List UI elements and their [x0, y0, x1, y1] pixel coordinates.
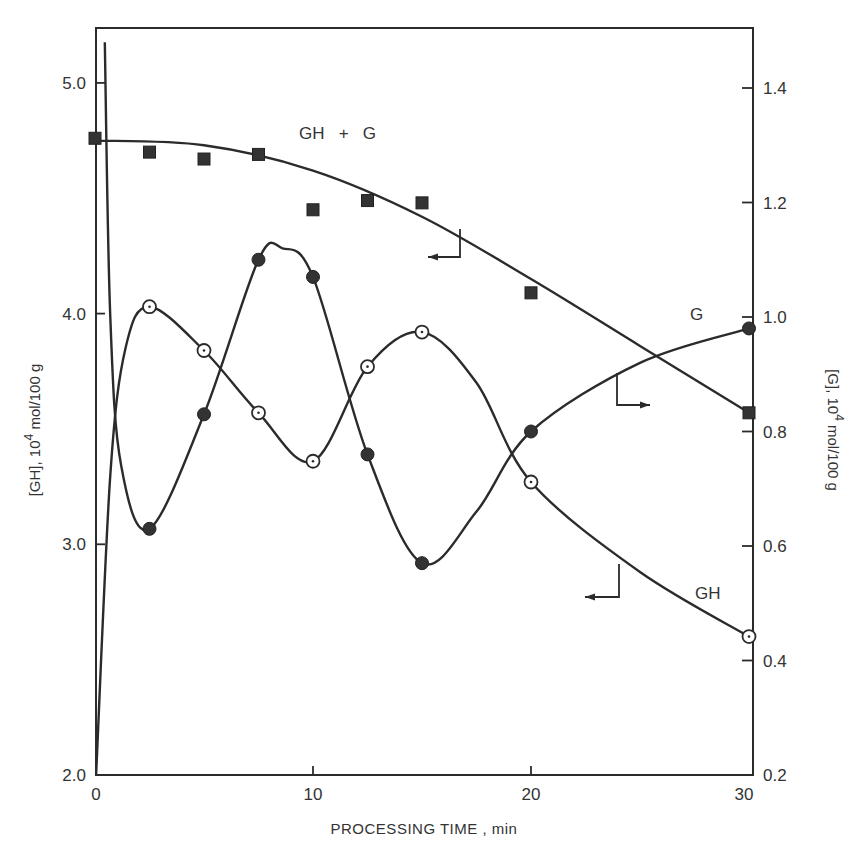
x-axis-title: PROCESSING TIME , min: [331, 820, 518, 837]
marker-gh-g-square: [198, 153, 210, 165]
marker-g-filled-circle: [416, 557, 429, 570]
marker-gh-g-square: [362, 195, 374, 207]
chart: 2.03.04.05.0 0.20.40.60.81.01.21.4 01020…: [0, 0, 852, 864]
plot-frame: [96, 28, 753, 775]
right-y-axis: 0.20.40.60.81.01.21.4: [742, 79, 787, 785]
marker-gh-center-dot: [257, 412, 260, 415]
marker-gh-center-dot: [530, 481, 533, 484]
right-axis-title-text: [G], 104 mol/100 g: [825, 369, 846, 491]
series-markers: [89, 132, 756, 643]
marker-g-filled-circle: [198, 408, 211, 421]
marker-gh-g-square: [144, 146, 156, 158]
x-tick-label: 0: [91, 785, 100, 804]
marker-gh-center-dot: [312, 460, 315, 463]
marker-gh-center-dot: [748, 635, 751, 638]
right-tick-label: 0.8: [763, 423, 787, 442]
arrowhead-right-icon: [640, 402, 650, 409]
x-axis: 0102030: [91, 766, 753, 804]
marker-gh-center-dot: [421, 331, 424, 334]
x-tick-label: 30: [735, 785, 754, 804]
marker-gh-center-dot: [366, 365, 369, 368]
marker-g-filled-circle: [361, 448, 374, 461]
curve-gh: [96, 307, 749, 775]
marker-gh-center-dot: [148, 305, 151, 308]
marker-gh-center-dot: [203, 349, 206, 352]
marker-g-filled-circle: [143, 522, 156, 535]
series-label-gh-g: GH + G: [299, 124, 376, 143]
series-curves: [95, 42, 749, 775]
arrowhead-left-icon: [585, 594, 595, 601]
right-tick-label: 0.6: [763, 537, 787, 556]
left-axis-title-text: [GH], 104 mol/100 g: [22, 364, 43, 497]
curve-g: [105, 42, 749, 564]
series-label-g: G: [690, 305, 703, 324]
marker-gh-g-square: [89, 132, 101, 144]
x-tick-label: 20: [522, 785, 541, 804]
marker-g-filled-circle: [252, 253, 265, 266]
right-tick-label: 0.2: [763, 766, 787, 785]
marker-g-filled-circle: [525, 425, 538, 438]
right-axis-title: [G], 104 mol/100 g: [825, 369, 846, 491]
right-tick-label: 1.0: [763, 308, 787, 327]
marker-gh-g-square: [253, 148, 265, 160]
marker-gh-g-square: [307, 204, 319, 216]
x-tick-label: 10: [304, 785, 323, 804]
marker-g-filled-circle: [307, 270, 320, 283]
marker-gh-g-square: [743, 407, 755, 419]
arrow-g-right: [617, 373, 650, 405]
marker-gh-g-square: [416, 197, 428, 209]
right-tick-label: 1.4: [763, 79, 787, 98]
arrowhead-left-icon: [428, 254, 438, 261]
left-tick-label: 4.0: [62, 305, 86, 324]
left-axis-title: [GH], 104 mol/100 g: [22, 364, 43, 497]
left-tick-label: 5.0: [62, 74, 86, 93]
right-tick-label: 1.2: [763, 194, 787, 213]
right-tick-label: 0.4: [763, 652, 787, 671]
left-tick-label: 3.0: [62, 535, 86, 554]
left-tick-label: 2.0: [62, 766, 86, 785]
marker-gh-g-square: [525, 287, 537, 299]
arrow-gh-left: [585, 564, 619, 597]
plot-border: [96, 28, 753, 775]
left-y-axis: 2.03.04.05.0: [62, 74, 105, 785]
marker-g-filled-circle: [743, 322, 756, 335]
curve-gh-g: [95, 141, 749, 413]
series-label-gh: GH: [695, 584, 721, 603]
